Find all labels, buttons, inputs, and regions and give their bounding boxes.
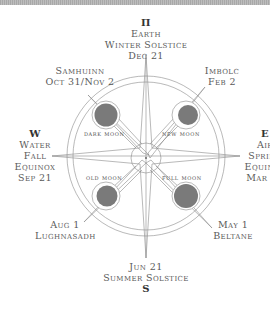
west-date: Sep 21 [10, 172, 60, 183]
dark-moon-label: dark moon [84, 130, 124, 138]
east-date: Mar 21 [240, 172, 270, 183]
south-date: Jun 21 [96, 261, 196, 272]
beltane-label: May 1 Beltane [208, 219, 258, 241]
full-moon-label: full moon [162, 174, 202, 182]
samhuinn-label: Samhuinn Oct 31/Nov 2 [40, 65, 120, 87]
lughnasadh-label: Aug 1 Lughnasadh [35, 219, 95, 241]
west-element: Water [10, 139, 60, 150]
lughnasadh-date: Aug 1 [35, 219, 95, 230]
beltane-name: Beltane [208, 230, 258, 241]
samhuinn-name: Samhuinn [40, 65, 120, 76]
west-season: Fall [10, 150, 60, 161]
full-moon-icon [174, 184, 198, 208]
north-symbol: Π [96, 17, 196, 28]
samhuinn-date: Oct 31/Nov 2 [40, 76, 120, 87]
old-moon-label: old moon [86, 174, 122, 182]
west-festival: Equinox [10, 161, 60, 172]
north-festival: Winter Solstice [96, 39, 196, 50]
east-season: Spring [240, 150, 270, 161]
east-element: Air [240, 139, 270, 150]
imbolc-label: Imbolc Feb 2 [196, 65, 248, 87]
west-label: W Water Fall Equinox Sep 21 [10, 128, 60, 183]
north-label: Π Earth Winter Solstice Dec 21 [96, 17, 196, 61]
lughnasadh-name: Lughnasadh [35, 230, 95, 241]
east-label: E Air Spring Equinox Mar 21 [240, 128, 270, 183]
imbolc-date: Feb 2 [196, 76, 248, 87]
north-element: Earth [96, 28, 196, 39]
east-symbol: E [240, 128, 270, 139]
south-label: Jun 21 Summer Solstice S [96, 261, 196, 294]
west-symbol: W [10, 128, 60, 139]
south-festival: Summer Solstice [96, 272, 196, 283]
dark-moon-icon [95, 104, 118, 127]
east-festival: Equinox [240, 161, 270, 172]
south-symbol: S [96, 283, 196, 294]
north-date: Dec 21 [96, 50, 196, 61]
imbolc-name: Imbolc [196, 65, 248, 76]
new-moon-icon [178, 105, 198, 125]
beltane-date: May 1 [208, 219, 258, 230]
old-moon-icon [97, 186, 118, 207]
new-moon-label: new moon [162, 130, 200, 138]
